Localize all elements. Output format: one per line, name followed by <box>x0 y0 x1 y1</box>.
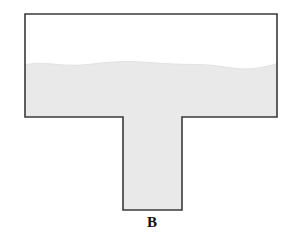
figure-root: B <box>0 0 288 244</box>
t-shaped-vessel-diagram <box>0 0 288 244</box>
